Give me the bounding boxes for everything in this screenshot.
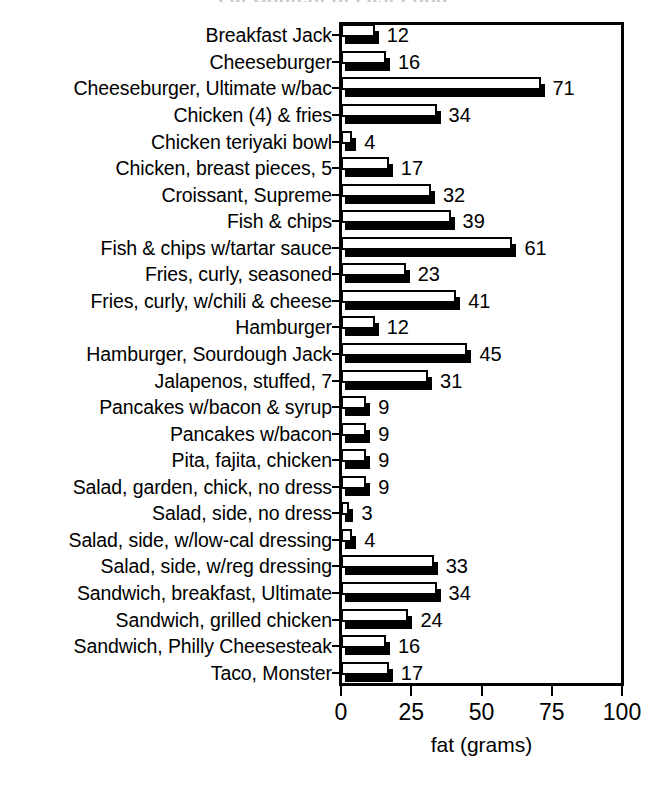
bar-row: Salad, garden, chick, no dress9 bbox=[0, 474, 666, 501]
bar-row: Chicken (4) & fries34 bbox=[0, 102, 666, 129]
bar-value-label: 9 bbox=[378, 397, 389, 417]
y-axis-tick bbox=[332, 592, 340, 594]
bar[interactable] bbox=[341, 609, 413, 631]
bar-value-label: 9 bbox=[378, 476, 389, 496]
bar[interactable] bbox=[341, 184, 436, 206]
category-label: Pancakes w/bacon & syrup bbox=[99, 397, 332, 417]
category-label: Salad, side, no dress bbox=[152, 503, 332, 523]
bar-row: Jalapenos, stuffed, 731 bbox=[0, 367, 666, 394]
bar[interactable] bbox=[341, 104, 442, 126]
bar-value-label: 17 bbox=[401, 158, 423, 178]
y-axis-tick bbox=[332, 512, 340, 514]
bar[interactable] bbox=[341, 423, 371, 445]
x-axis-tick-label: 50 bbox=[469, 699, 495, 725]
y-axis-tick bbox=[332, 194, 340, 196]
bar-value-label: 12 bbox=[387, 25, 409, 45]
bar[interactable] bbox=[341, 635, 391, 657]
category-label: Hamburger bbox=[235, 317, 332, 337]
bar[interactable] bbox=[341, 555, 439, 577]
bar[interactable] bbox=[341, 449, 371, 471]
bar-row: Croissant, Supreme32 bbox=[0, 181, 666, 208]
bar-row: Hamburger, Sourdough Jack45 bbox=[0, 341, 666, 368]
bar[interactable] bbox=[341, 370, 433, 392]
bar-value-label: 9 bbox=[378, 423, 389, 443]
y-axis-tick bbox=[332, 326, 340, 328]
x-axis-tick-label: 0 bbox=[335, 699, 348, 725]
bar-row: Salad, side, w/low-cal dressing4 bbox=[0, 527, 666, 554]
category-label: Pancakes w/bacon bbox=[170, 424, 332, 444]
bar-row: Pita, fajita, chicken9 bbox=[0, 447, 666, 474]
bar[interactable] bbox=[341, 263, 411, 285]
y-axis-tick bbox=[332, 619, 340, 621]
bar-face bbox=[341, 77, 541, 90]
bar-face bbox=[341, 210, 451, 223]
bar-value-label: 17 bbox=[401, 662, 423, 682]
bar[interactable] bbox=[341, 157, 394, 179]
bar-value-label: 24 bbox=[420, 609, 442, 629]
bar-value-label: 39 bbox=[463, 211, 485, 231]
chart-title: Fat Content of Fast Food bbox=[0, 0, 666, 2]
y-axis-tick bbox=[332, 300, 340, 302]
category-label: Taco, Monster bbox=[211, 663, 332, 683]
bar-row: Pancakes w/bacon & syrup9 bbox=[0, 394, 666, 421]
category-label: Hamburger, Sourdough Jack bbox=[86, 344, 332, 364]
bar[interactable] bbox=[341, 316, 380, 338]
bar[interactable] bbox=[341, 77, 546, 99]
bar-row: Pancakes w/bacon9 bbox=[0, 420, 666, 447]
y-axis-tick bbox=[332, 220, 340, 222]
bar[interactable] bbox=[341, 662, 394, 684]
bar[interactable] bbox=[341, 529, 357, 551]
x-axis-tick-label: 100 bbox=[603, 699, 641, 725]
bar-face bbox=[341, 370, 428, 383]
y-axis-tick bbox=[332, 353, 340, 355]
bar[interactable] bbox=[341, 582, 442, 604]
category-label: Salad, garden, chick, no dress bbox=[73, 477, 332, 497]
x-axis-title: fat (grams) bbox=[339, 733, 624, 757]
bar-value-label: 34 bbox=[449, 105, 471, 125]
bar-value-label: 33 bbox=[446, 556, 468, 576]
bar-face bbox=[341, 609, 408, 622]
bar-value-label: 31 bbox=[440, 370, 462, 390]
bar-face bbox=[341, 24, 375, 37]
y-axis-tick bbox=[332, 380, 340, 382]
y-axis-tick bbox=[332, 141, 340, 143]
y-axis-tick bbox=[332, 672, 340, 674]
bar-row: Salad, side, w/reg dressing33 bbox=[0, 553, 666, 580]
bar-rows-container: Breakfast Jack12Cheeseburger16Cheeseburg… bbox=[0, 22, 666, 686]
bar-value-label: 4 bbox=[364, 131, 375, 151]
x-axis-tick bbox=[621, 686, 623, 696]
bar[interactable] bbox=[341, 131, 357, 153]
bar[interactable] bbox=[341, 502, 354, 524]
bar-row: Taco, Monster17 bbox=[0, 659, 666, 686]
bar-face bbox=[341, 449, 366, 462]
category-label: Breakfast Jack bbox=[206, 25, 332, 45]
bar-value-label: 23 bbox=[418, 264, 440, 284]
bar[interactable] bbox=[341, 24, 380, 46]
category-label: Fries, curly, w/chili & cheese bbox=[90, 291, 332, 311]
bar[interactable] bbox=[341, 343, 472, 365]
bar-face bbox=[341, 662, 389, 675]
y-axis-tick bbox=[332, 34, 340, 36]
category-label: Cheeseburger, Ultimate w/bac bbox=[74, 78, 332, 98]
bar[interactable] bbox=[341, 476, 371, 498]
category-label: Chicken, breast pieces, 5 bbox=[116, 158, 332, 178]
bar-value-label: 9 bbox=[378, 450, 389, 470]
y-axis-tick bbox=[332, 167, 340, 169]
bar[interactable] bbox=[341, 290, 461, 312]
bar[interactable] bbox=[341, 396, 371, 418]
bar-face bbox=[341, 502, 349, 515]
y-axis-tick bbox=[332, 645, 340, 647]
bar-row: Sandwich, grilled chicken24 bbox=[0, 606, 666, 633]
bar-face bbox=[341, 423, 366, 436]
bar-value-label: 71 bbox=[553, 78, 575, 98]
bar[interactable] bbox=[341, 237, 517, 259]
bar[interactable] bbox=[341, 51, 391, 73]
bar-face bbox=[341, 343, 467, 356]
category-label: Cheeseburger bbox=[210, 52, 332, 72]
bar-row: Fish & chips39 bbox=[0, 208, 666, 235]
y-axis-tick bbox=[332, 433, 340, 435]
bar-row: Chicken, breast pieces, 517 bbox=[0, 155, 666, 182]
y-axis-tick bbox=[332, 273, 340, 275]
category-label: Fish & chips w/tartar sauce bbox=[101, 238, 332, 258]
bar[interactable] bbox=[341, 210, 456, 232]
